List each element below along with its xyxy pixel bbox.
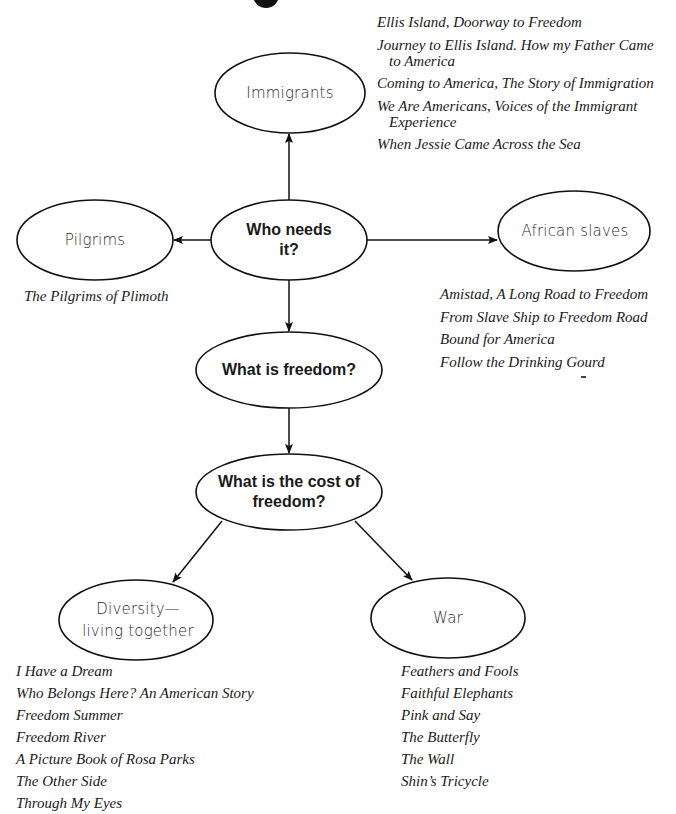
book-title: The Pilgrims of Plimoth xyxy=(24,288,169,304)
book-title: A Picture Book of Rosa Parks xyxy=(16,751,254,767)
node-immigrants-label: Immigrants xyxy=(246,84,333,102)
node-immigrants: Immigrants xyxy=(246,82,333,104)
book-title: Journey to Ellis Island. How my Father C… xyxy=(377,37,667,69)
book-title: Through My Eyes xyxy=(16,795,254,811)
book-title: Feathers and Fools xyxy=(401,663,519,679)
node-pilgrims: Pilgrims xyxy=(65,229,125,251)
book-title: The Other Side xyxy=(16,773,254,789)
book-title: We Are Americans, Voices of the Immigran… xyxy=(377,98,667,130)
book-title: Freedom River xyxy=(16,729,254,745)
book-list-african-slaves: Amistad, A Long Road to Freedom From Sla… xyxy=(440,286,648,376)
book-title: Faithful Elephants xyxy=(401,685,519,701)
book-title: When Jessie Came Across the Sea xyxy=(377,136,667,152)
concept-map: Immigrants Who needs it? Pilgrims Africa… xyxy=(0,0,676,814)
book-list-pilgrims: The Pilgrims of Plimoth xyxy=(24,288,169,311)
book-title: Ellis Island, Doorway to Freedom xyxy=(377,14,667,30)
node-diversity-line1: Diversity— xyxy=(82,598,194,620)
book-title: Amistad, A Long Road to Freedom xyxy=(440,286,648,302)
book-title: The Wall xyxy=(401,751,519,767)
book-title: Coming to America, The Story of Immigrat… xyxy=(377,75,659,91)
node-cost-of-freedom: What is the cost of freedom? xyxy=(218,472,360,512)
node-who-needs-it-line2: it? xyxy=(246,240,331,260)
node-who-needs-it-line1: Who needs xyxy=(246,220,331,240)
node-what-is-freedom: What is freedom? xyxy=(222,360,356,380)
book-title: From Slave Ship to Freedom Road xyxy=(440,309,648,325)
book-title: Pink and Say xyxy=(401,707,519,723)
node-what-is-freedom-label: What is freedom? xyxy=(222,361,356,378)
book-title: Freedom Summer xyxy=(16,707,254,723)
book-list-war: Feathers and Fools Faithful Elephants Pi… xyxy=(401,663,519,795)
node-who-needs-it: Who needs it? xyxy=(246,220,331,260)
book-title: The Butterfly xyxy=(401,729,519,745)
node-cost-of-freedom-line2: freedom? xyxy=(218,492,360,512)
book-list-immigrants: Ellis Island, Doorway to Freedom Journey… xyxy=(377,14,667,159)
node-pilgrims-label: Pilgrims xyxy=(65,231,125,249)
book-title: Who Belongs Here? An American Story xyxy=(16,685,254,701)
node-diversity: Diversity— living together xyxy=(82,598,194,642)
edge-cost-to-diversity xyxy=(173,521,222,582)
book-title: I Have a Dream xyxy=(16,663,254,679)
book-title: Bound for America xyxy=(440,331,648,347)
edge-cost-to-war xyxy=(355,521,412,580)
book-list-diversity: I Have a Dream Who Belongs Here? An Amer… xyxy=(16,663,254,814)
book-title: Follow the Drinking Gourd xyxy=(440,354,648,370)
node-diversity-line2: living together xyxy=(82,620,194,642)
node-african-slaves: African slaves xyxy=(522,220,629,242)
node-african-slaves-label: African slaves xyxy=(522,222,629,240)
node-cost-of-freedom-line1: What is the cost of xyxy=(218,472,360,492)
book-title: Shin’s Tricycle xyxy=(401,773,519,789)
node-war: War xyxy=(433,607,463,629)
node-war-label: War xyxy=(433,609,463,627)
